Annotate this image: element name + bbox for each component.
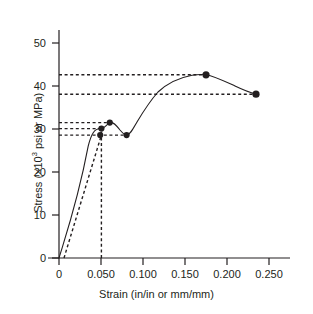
plot-area [0, 0, 313, 314]
x-tick-label-0150: 0.150 [165, 269, 205, 280]
stress-strain-curve [59, 74, 256, 258]
y-axis-title: Stress (×103 psi or MPa) [30, 53, 44, 253]
stress-strain-chart: 0 10 20 30 40 50 0 0.050 0.100 0.150 0.2… [0, 0, 313, 314]
y-axis-title-exponent: 3 [30, 152, 39, 156]
tensile-strength-point [202, 71, 209, 78]
x-axis-ticks [59, 258, 269, 265]
y-axis-ticks [52, 43, 59, 258]
offset-yield-line [64, 135, 101, 258]
x-tick-label-0200: 0.200 [207, 269, 247, 280]
y-tick-label-0: 0 [18, 253, 46, 264]
proportional-limit-point [98, 126, 104, 132]
upper-yield-point [107, 120, 113, 126]
yield-offset-point [97, 132, 103, 138]
y-axis-title-prefix: Stress (×10 [32, 156, 44, 213]
x-tick-label-0: 0 [39, 269, 79, 280]
data-point-markers [97, 71, 260, 138]
x-axis-title: Strain (in/in or mm/mm) [0, 288, 313, 300]
x-tick-label-0050: 0.050 [81, 269, 121, 280]
y-axis-title-suffix: psi or MPa) [32, 93, 44, 152]
x-tick-label-0100: 0.100 [123, 269, 163, 280]
lower-yield-point [124, 132, 130, 138]
y-tick-label-50: 50 [18, 38, 46, 49]
fracture-point [252, 91, 259, 98]
horizontal-reference-lines [59, 75, 256, 135]
x-tick-label-0250: 0.250 [249, 269, 289, 280]
